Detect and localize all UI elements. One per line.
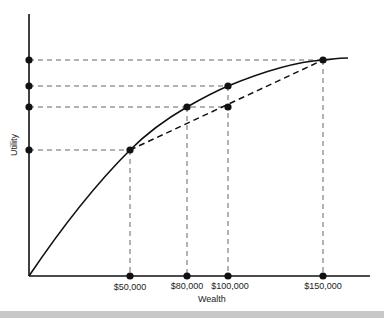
bottom-bar <box>0 311 384 318</box>
x-tick-80000: $80,000 <box>171 281 204 291</box>
curve-point-100000 <box>224 82 231 89</box>
utility-wealth-diagram <box>0 0 384 318</box>
x-dot-1 <box>126 272 133 279</box>
x-dot-2 <box>183 272 190 279</box>
x-dot-4 <box>319 272 326 279</box>
x-axis-title: Wealth <box>198 294 226 304</box>
y-dot-2 <box>25 82 32 89</box>
curve-point-50000 <box>126 146 133 153</box>
utility-curve <box>29 58 348 276</box>
chord-point-100000 <box>224 103 231 110</box>
horizontal-guides <box>29 60 323 150</box>
data-points <box>25 56 326 279</box>
y-dot-1 <box>25 56 32 63</box>
y-dot-3 <box>25 103 32 110</box>
x-dot-3 <box>224 272 231 279</box>
x-tick-100000: $100,000 <box>211 281 249 291</box>
x-tick-150000: $150,000 <box>304 281 342 291</box>
curve-point-80000 <box>183 103 190 110</box>
x-tick-50000: $50,000 <box>114 282 147 292</box>
vertical-guides <box>130 60 323 276</box>
y-dot-4 <box>25 146 32 153</box>
curve-point-150000 <box>319 56 326 63</box>
y-axis-title: Utility <box>9 134 19 156</box>
